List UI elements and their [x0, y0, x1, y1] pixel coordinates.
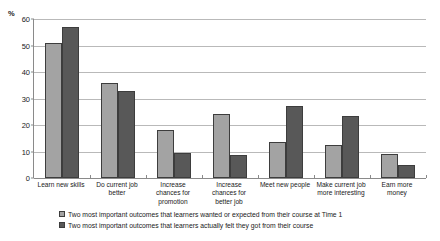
category-label-line: chances for: [202, 189, 256, 197]
legend-swatch-icon: [59, 222, 65, 228]
x-axis-category-label: Meet new people: [257, 181, 313, 206]
y-tick-label-0: 0: [0, 174, 34, 183]
bar: [269, 142, 286, 178]
x-axis-category-label: Earn moremoney: [369, 181, 425, 206]
bar-group: [370, 19, 426, 178]
bar: [62, 27, 79, 178]
category-label-line: more interesting: [314, 189, 368, 197]
bar-group: [146, 19, 202, 178]
bar-group: [258, 19, 314, 178]
bar-group: [34, 19, 90, 178]
x-axis-category-label: Increasechances forbetter job: [201, 181, 257, 206]
bar: [398, 165, 415, 178]
x-tick-mark: [426, 175, 427, 178]
x-axis-category-label: Do current jobbetter: [89, 181, 145, 206]
y-tick-label-30: 30: [0, 94, 34, 103]
legend-item: Two most important outcomes that learner…: [59, 220, 419, 230]
bar: [230, 155, 247, 178]
bar: [342, 116, 359, 178]
gridline-0: [34, 178, 426, 179]
category-label-line: Earn more: [370, 181, 424, 189]
category-label-line: chances for: [146, 189, 200, 197]
category-label-line: money: [370, 189, 424, 197]
bars-layer: [34, 19, 426, 178]
bar-group: [202, 19, 258, 178]
category-label-line: Make current job: [314, 181, 368, 189]
bar: [286, 106, 303, 178]
y-tick-label-50: 50: [0, 41, 34, 50]
plot-area: 0102030405060: [33, 19, 426, 178]
y-tick-label-60: 60: [0, 15, 34, 24]
y-tick-label-10: 10: [0, 147, 34, 156]
x-axis-category-label: Make current jobmore interesting: [313, 181, 369, 206]
legend-swatch-icon: [59, 211, 65, 217]
x-axis-category-labels: Learn new skillsDo current jobbetterIncr…: [33, 181, 425, 206]
bar: [213, 114, 230, 178]
x-axis-category-label: Increasechances forpromotion: [145, 181, 201, 206]
bar: [118, 91, 135, 178]
x-axis-category-label: Learn new skills: [33, 181, 89, 206]
category-label-line: Increase: [146, 181, 200, 189]
bar: [157, 130, 174, 178]
category-label-line: Do current job: [90, 181, 144, 189]
category-label-line: better job: [202, 198, 256, 206]
bar: [45, 43, 62, 178]
bar-chart: % 0102030405060 Learn new skillsDo curre…: [0, 0, 440, 241]
bar: [325, 145, 342, 178]
legend-label: Two most important outcomes that learner…: [68, 221, 313, 230]
bar: [174, 153, 191, 178]
chart-legend: Two most important outcomes that learner…: [59, 209, 419, 231]
bar-group: [314, 19, 370, 178]
bar-group: [90, 19, 146, 178]
legend-item: Two most important outcomes that learner…: [59, 209, 419, 219]
legend-label: Two most important outcomes that learner…: [68, 210, 342, 219]
bar: [101, 83, 118, 178]
y-tick-label-20: 20: [0, 121, 34, 130]
category-label-line: Learn new skills: [34, 181, 88, 189]
category-label-line: promotion: [146, 198, 200, 206]
category-label-line: Increase: [202, 181, 256, 189]
bar: [381, 154, 398, 178]
y-tick-label-40: 40: [0, 68, 34, 77]
category-label-line: better: [90, 189, 144, 197]
category-label-line: Meet new people: [258, 181, 312, 189]
